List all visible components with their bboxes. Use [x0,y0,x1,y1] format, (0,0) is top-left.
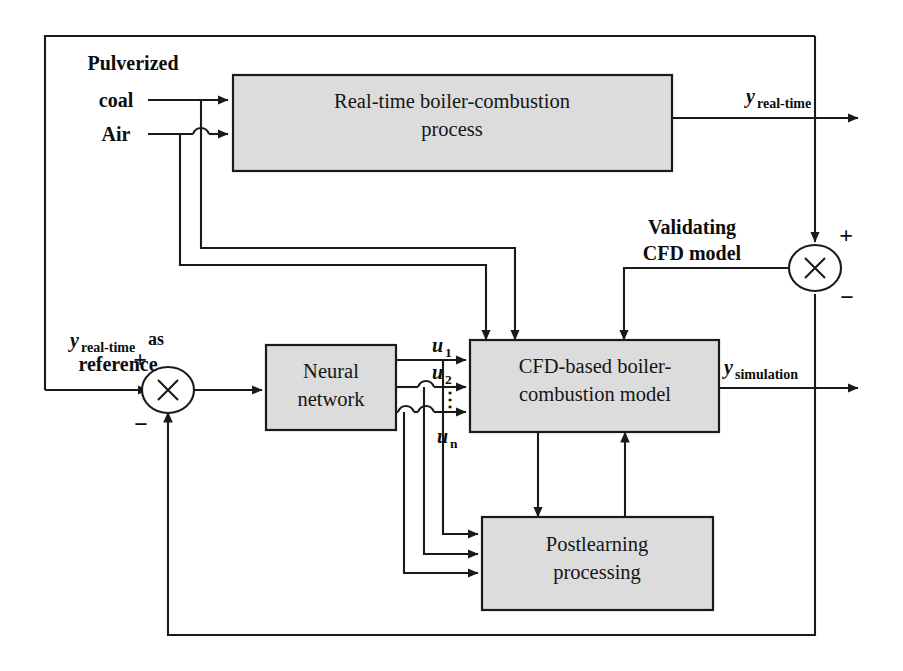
u1-symbol: u [432,334,443,356]
error-junction-minus-sign: − [134,411,148,437]
validating-label-line1: Validating [648,216,736,239]
pulverized-label: Pulverized [87,52,178,74]
box-postlearning: Postlearning processing [482,517,713,610]
y-simulation-subscript: simulation [735,367,798,382]
air-label: Air [102,123,131,145]
u2-label: u 2 [432,361,452,387]
y-realtime-subscript: real-time [757,96,811,111]
u1-label: u 1 [432,334,452,360]
validation-summing-junction [789,245,841,291]
box-cfd-model: CFD-based boiler- combustion model [470,340,719,432]
real-time-process-label-line1: Real-time boiler-combustion [334,90,570,112]
cfd-model-label-line1: CFD-based boiler- [519,355,672,377]
postlearning-label-line2: processing [553,561,641,584]
validating-label-line2: CFD model [643,242,742,264]
validating-cfd-model-wire [624,268,789,340]
validation-junction-plus-sign: + [839,222,853,248]
reference-word-label: reference [78,353,157,375]
u2-symbol: u [432,361,443,383]
u-vertical-dots: ⋮ [440,388,460,410]
validation-junction-minus-sign: − [840,284,854,310]
diagram-canvas: Real-time boiler-combustion process + − … [0,0,903,671]
y-simulation-label: y simulation [722,356,798,382]
un-subscript: n [450,436,458,451]
neural-network-label-line1: Neural [303,360,359,382]
postlearning-label-line1: Postlearning [546,533,649,556]
box-neural-network: Neural network [266,345,396,430]
un-label: u n [437,425,458,451]
y-realtime-symbol: y [744,85,755,108]
reference-y-symbol: y [68,329,79,352]
reference-as-word: as [148,329,164,349]
u1-subscript: 1 [445,345,452,360]
air-input-wire [148,128,228,134]
un-symbol: u [437,425,448,447]
coal-label: coal [99,89,134,111]
cfd-model-label-line2: combustion model [519,383,671,405]
neural-network-label-line2: network [297,388,365,410]
block-diagram: Real-time boiler-combustion process + − … [0,0,903,671]
box-real-time-process: Real-time boiler-combustion process [233,75,672,171]
y-realtime-reference-label: y real-time as reference [68,329,164,375]
real-time-process-label-line2: process [421,118,483,141]
u2-subscript: 2 [445,372,452,387]
y-simulation-symbol: y [722,356,733,379]
y-realtime-label: y real-time [744,85,811,111]
